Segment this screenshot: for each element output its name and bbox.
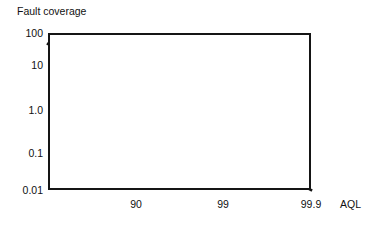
- y-axis-tick-label: 10: [0, 59, 43, 71]
- y-axis-tick-labels: 100101.00.10.01: [0, 0, 43, 228]
- x-axis-tick-label: 90: [106, 198, 166, 210]
- x-axis-tick-label: 99: [193, 198, 253, 210]
- y-axis-tick-label: 1.0: [0, 104, 43, 116]
- plot-frame: [48, 33, 311, 190]
- chart-figure: Fault coverage 100101.00.10.01 909999.9 …: [0, 0, 380, 228]
- y-axis-tick-label: 0.01: [0, 184, 43, 196]
- x-axis-title: AQL: [340, 198, 361, 210]
- y-axis-tick-label: 100: [0, 27, 43, 39]
- y-axis-tick-label: 0.1: [0, 147, 43, 159]
- x-axis-tick-label: 99.9: [281, 198, 341, 210]
